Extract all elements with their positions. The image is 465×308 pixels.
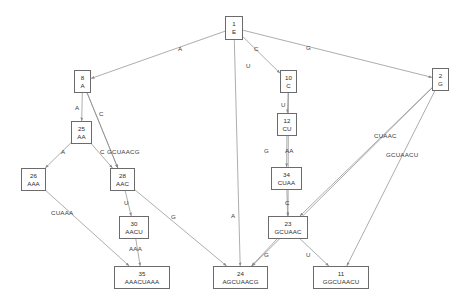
edge-label: CUAAC: [374, 132, 397, 139]
edge-1-to-8: [91, 31, 225, 78]
edge-8-to-25: [82, 93, 83, 121]
node-id: 25: [78, 125, 85, 133]
edge-label: C: [254, 45, 259, 52]
edge-label: G: [264, 251, 269, 258]
tree-node-12[interactable]: 12CU: [277, 113, 297, 136]
node-id: 28: [119, 172, 126, 180]
edge-label: C: [285, 199, 290, 206]
node-label: A: [80, 82, 84, 90]
node-label: AACU: [125, 228, 143, 236]
tree-node-1[interactable]: 1E: [225, 16, 243, 40]
edge-label: U: [281, 101, 286, 108]
edge-label: G: [171, 213, 176, 220]
edge-1-to-2: [243, 30, 432, 77]
edge-label: AAA: [129, 245, 142, 252]
tree-node-30[interactable]: 30AACU: [119, 216, 149, 239]
edge-label: A: [178, 45, 182, 52]
edge-23-to-11: [300, 239, 329, 266]
tree-node-24[interactable]: 24AGCUAACG: [213, 266, 268, 289]
node-id: 2: [439, 72, 443, 80]
edge-label: U: [246, 62, 251, 69]
node-label: AAA: [27, 180, 40, 188]
tree-node-10[interactable]: 10C: [280, 70, 297, 93]
node-id: 34: [283, 171, 290, 179]
edge-label: C: [100, 148, 105, 155]
tree-node-34[interactable]: 34CUAA: [271, 167, 302, 190]
node-id: 1: [232, 20, 236, 28]
edge-label: GCUAACU: [386, 151, 418, 158]
node-label: CU: [282, 125, 291, 133]
node-label: CUAA: [278, 179, 296, 187]
tree-node-11[interactable]: 11GGCUAACU: [313, 266, 369, 289]
edge-label: G: [264, 147, 269, 154]
diagram-canvas: ACUGACACGCUAACGUCUAAAAAAGUAACGGUCUAACGCU…: [0, 0, 465, 308]
edge-10-to-12: [287, 93, 288, 113]
edge-label: A: [75, 104, 79, 111]
edge-1-to-24: [234, 40, 240, 266]
node-id: 24: [237, 270, 244, 278]
tree-node-2[interactable]: 2G: [432, 68, 449, 91]
node-label: AAC: [116, 180, 129, 188]
node-label: GCUAAC: [274, 228, 301, 236]
node-label: GGCUAACU: [323, 278, 360, 286]
node-id: 26: [30, 172, 37, 180]
node-id: 23: [284, 220, 291, 228]
edge-26-to-35: [46, 191, 129, 266]
node-id: 10: [285, 74, 292, 82]
edge-2-to-11: [347, 91, 435, 266]
edge-label: GCUAACG: [107, 148, 140, 155]
edge-label: A: [61, 148, 65, 155]
edge-label: U: [124, 199, 129, 206]
edge-30-to-35: [136, 239, 140, 266]
tree-node-35[interactable]: 35AAACUAAA: [114, 266, 170, 289]
tree-node-8[interactable]: 8A: [74, 70, 91, 93]
node-label: AAACUAAA: [125, 278, 160, 286]
edge-label: U: [306, 251, 311, 258]
tree-node-25[interactable]: 25AA: [71, 121, 92, 144]
edge-label: G: [306, 44, 311, 51]
edge-label: AA: [285, 147, 294, 154]
node-id: 11: [338, 270, 345, 278]
node-id: 35: [138, 270, 145, 278]
edge-label: CUAAA: [51, 209, 73, 216]
edge-label: C: [99, 110, 104, 117]
node-label: AGCUAACG: [222, 278, 258, 286]
node-label: AA: [77, 133, 85, 141]
tree-node-26[interactable]: 26AAA: [21, 168, 46, 191]
edge-label: A: [231, 212, 235, 219]
node-label: E: [232, 28, 236, 36]
tree-node-28[interactable]: 28AAC: [110, 168, 135, 191]
node-id: 30: [130, 220, 137, 228]
edge-25-to-26: [45, 143, 71, 168]
tree-node-23[interactable]: 23GCUAAC: [268, 216, 308, 239]
node-label: C: [286, 82, 291, 90]
node-id: 8: [81, 74, 85, 82]
node-id: 12: [283, 117, 290, 125]
node-label: G: [438, 80, 443, 88]
